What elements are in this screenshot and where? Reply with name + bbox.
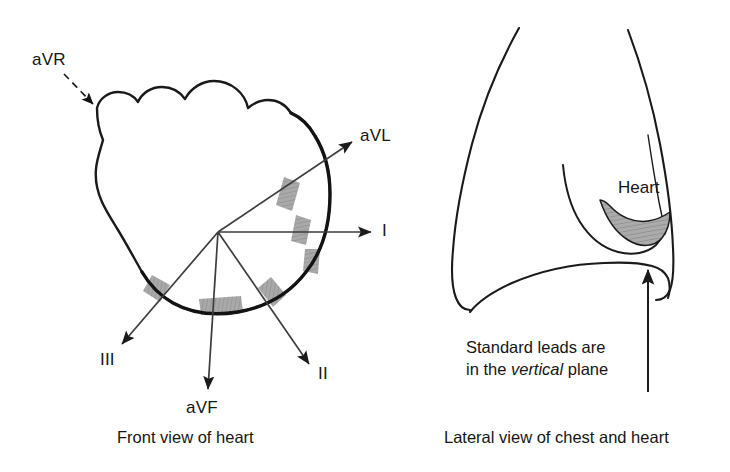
- chest-wall-posterior: [628, 30, 673, 300]
- lead-label-ii: II: [318, 364, 328, 384]
- lead-label-iii: III: [100, 350, 115, 370]
- diagram-canvas: [0, 0, 730, 472]
- front-view-heart-group: [64, 74, 371, 389]
- chest-wall-anterior: [452, 28, 519, 310]
- lead-vector-avr: [64, 74, 93, 104]
- front-view-caption: Front view of heart: [117, 428, 254, 447]
- lead-vector-group: [64, 74, 371, 389]
- vertical-plane-note-line1: Standard leads are: [466, 336, 608, 358]
- electrode-segment-upper-right: [291, 215, 311, 245]
- note-line2-prefix: in the: [466, 360, 511, 378]
- vertical-plane-note: Standard leads are in the vertical plane: [466, 336, 608, 380]
- figure-root: aVR aVL I II III aVF Front view of heart…: [0, 0, 730, 472]
- lateral-view-caption: Lateral view of chest and heart: [444, 428, 669, 447]
- lead-vector-iii: [122, 232, 218, 344]
- heart-label: Heart: [618, 178, 660, 198]
- diaphragm-curve: [470, 263, 670, 312]
- lead-label-avf: aVF: [186, 398, 218, 418]
- lead-label-avl: aVL: [360, 126, 391, 146]
- lead-label-avr: aVR: [32, 50, 66, 70]
- lead-vector-avl: [218, 142, 352, 232]
- lead-label-i: I: [382, 221, 387, 241]
- electrode-segment-avl: [276, 177, 300, 211]
- electrode-segment-group: [143, 177, 320, 315]
- vertical-plane-note-line2: in the vertical plane: [466, 358, 608, 380]
- note-line2-suffix: plane: [563, 360, 608, 378]
- note-line2-emphasis: vertical: [511, 360, 563, 378]
- ventricular-arc: [142, 113, 330, 314]
